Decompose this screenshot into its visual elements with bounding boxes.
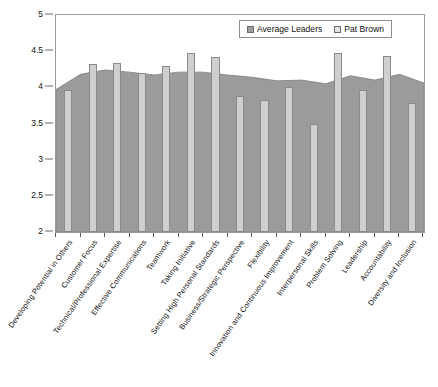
x-axis-tick-mark	[325, 233, 326, 237]
legend-swatch-icon	[247, 26, 254, 33]
y-axis-tick-label: 2	[38, 226, 43, 236]
y-axis-tick-mark	[45, 231, 53, 232]
bar	[138, 73, 146, 232]
bar	[187, 53, 195, 232]
bar	[113, 63, 121, 232]
y-axis-tick-mark	[45, 158, 53, 159]
bar	[383, 56, 391, 232]
y-axis-tick-label: 2.5	[31, 190, 43, 200]
y-axis-tick-label: 5	[38, 9, 43, 19]
x-axis-tick-mark	[349, 233, 350, 237]
bar	[89, 64, 97, 232]
legend-label: Average Leaders	[257, 24, 322, 34]
x-axis-tick-mark	[129, 233, 130, 237]
bar	[64, 90, 72, 232]
x-axis-tick-mark	[300, 233, 301, 237]
legend-entry: Average Leaders	[247, 24, 322, 34]
y-axis-tick-mark	[45, 14, 53, 15]
x-axis-tick-mark	[227, 233, 228, 237]
plot-area	[55, 14, 425, 233]
bar	[334, 53, 342, 232]
chart-container: 22.533.544.55 Developing Potential in Ot…	[0, 0, 438, 387]
x-axis-tick-mark	[422, 233, 423, 237]
x-axis-tick-mark	[251, 233, 252, 237]
legend-entry: Pat Brown	[334, 24, 384, 34]
bar	[359, 90, 367, 232]
x-axis-tick-mark	[398, 233, 399, 237]
x-axis-category-label: Flexibility	[245, 238, 271, 270]
x-axis-tick-mark	[153, 233, 154, 237]
y-axis-tick-mark	[45, 86, 53, 87]
bar	[162, 66, 170, 232]
bar	[260, 100, 268, 232]
bar	[236, 96, 244, 232]
x-axis-tick-mark	[80, 233, 81, 237]
x-axis-tick-mark	[178, 233, 179, 237]
y-axis-tick-mark	[45, 122, 53, 123]
bar	[408, 103, 416, 232]
bar	[310, 124, 318, 233]
y-axis-tick-label: 4.5	[31, 45, 43, 55]
y-axis-tick-label: 3	[38, 154, 43, 164]
y-axis-tick-label: 4	[38, 81, 43, 91]
y-axis: 22.533.544.55	[0, 0, 55, 247]
y-axis-tick-mark	[45, 194, 53, 195]
x-axis-labels: Developing Potential in OthersCustomer F…	[0, 238, 438, 387]
x-axis-tick-mark	[276, 233, 277, 237]
legend-label: Pat Brown	[344, 24, 384, 34]
y-axis-tick-label: 3.5	[31, 118, 43, 128]
y-axis-tick-mark	[45, 50, 53, 51]
legend-swatch-icon	[334, 26, 341, 33]
bar	[211, 57, 219, 232]
x-axis-tick-mark	[374, 233, 375, 237]
bar	[285, 87, 293, 232]
x-axis-tick-mark	[55, 233, 56, 237]
x-axis-tick-mark	[104, 233, 105, 237]
x-axis-category-label: Diversity and Inclusion	[366, 238, 418, 307]
x-axis-tick-mark	[202, 233, 203, 237]
pat-brown-bars	[56, 15, 424, 232]
chart-legend: Average LeadersPat Brown	[239, 20, 392, 38]
